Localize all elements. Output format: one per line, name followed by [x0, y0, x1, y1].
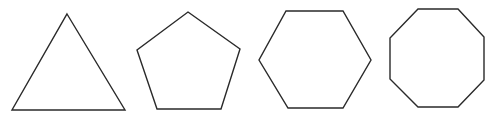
pentagon [137, 12, 240, 109]
polygons-diagram [0, 0, 494, 121]
hexagon [259, 11, 371, 108]
octagon [390, 9, 484, 107]
triangle [12, 14, 125, 110]
